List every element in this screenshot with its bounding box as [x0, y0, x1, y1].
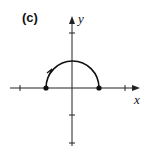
x-axis-arrow-icon [132, 85, 140, 91]
right-endpoint-dot [96, 85, 101, 90]
y-axis-arrow-icon [69, 16, 75, 24]
parametric-curve-diagram [0, 0, 150, 154]
left-endpoint-dot [43, 85, 48, 90]
